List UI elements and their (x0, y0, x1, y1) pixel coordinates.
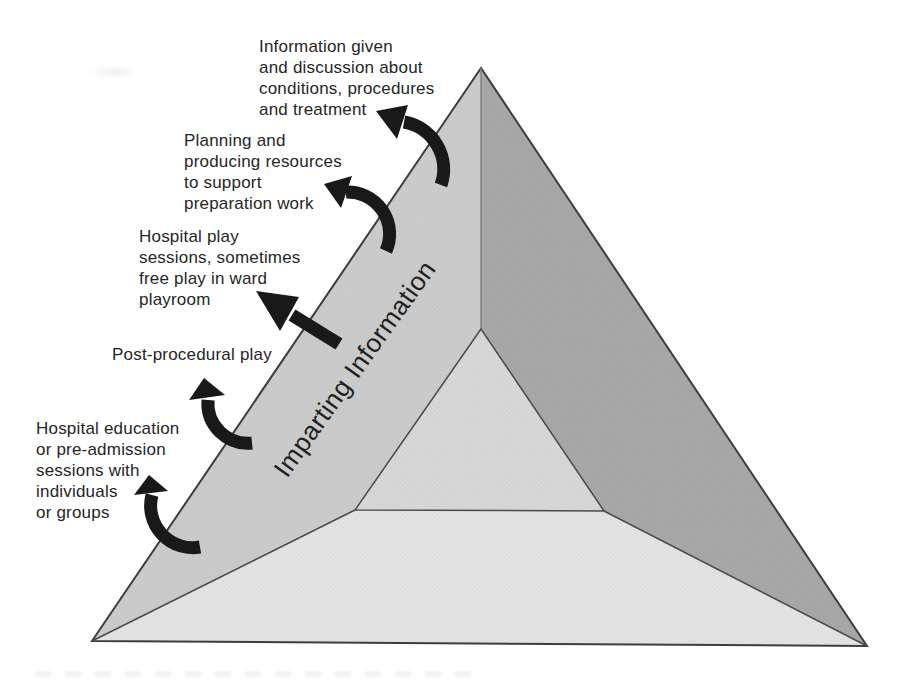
callout-information-given: Information given and discussion about c… (259, 36, 434, 120)
callout-planning-resources: Planning and producing resources to supp… (184, 130, 342, 214)
pyramid-graphic (0, 0, 898, 680)
callout-post-procedural: Post-procedural play (112, 344, 272, 365)
callout-hospital-play: Hospital play sessions, sometimes free p… (139, 226, 301, 310)
scan-smudge (88, 66, 140, 78)
callout-hospital-education: Hospital education or pre-admission sess… (36, 418, 179, 523)
arrowhead-icon (189, 378, 225, 400)
cutoff-caption-remnant (35, 671, 480, 677)
pyramid-diagram: Imparting Information Information given … (0, 0, 898, 680)
